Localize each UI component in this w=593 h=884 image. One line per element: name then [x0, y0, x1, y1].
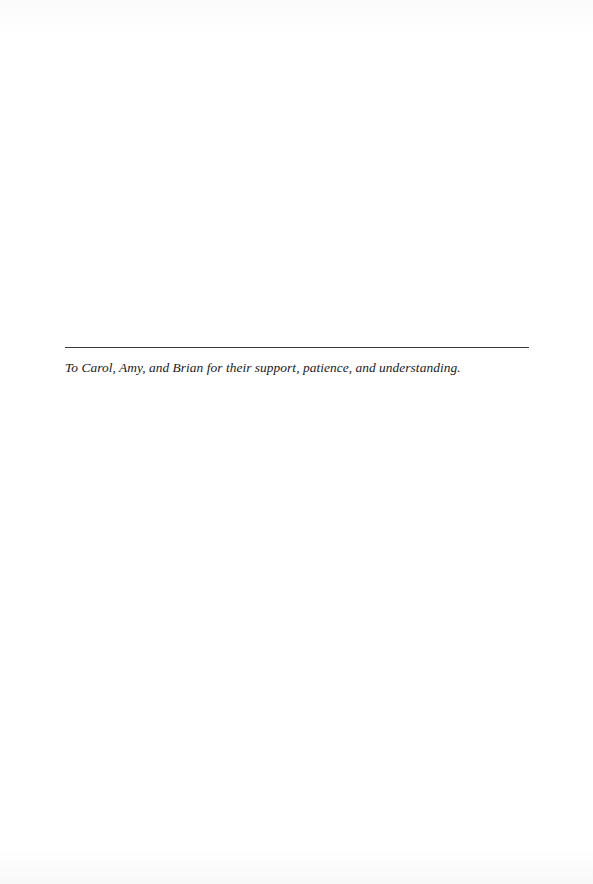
dedication-text: To Carol, Amy, and Brian for their suppo…: [65, 360, 461, 376]
dedication-divider: [65, 347, 529, 348]
